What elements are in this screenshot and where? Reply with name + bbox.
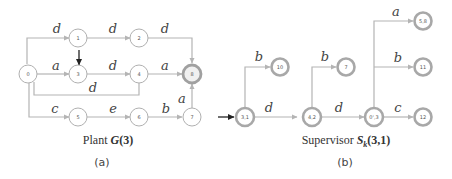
edge-0-4: d <box>34 80 139 95</box>
node-0: 0 <box>19 65 37 83</box>
svg-text:0',3: 0',3 <box>369 114 378 120</box>
svg-text:5,8: 5,8 <box>419 18 427 24</box>
edge-label: d <box>265 100 273 115</box>
node-6: 6 <box>130 108 148 126</box>
node-2: 2 <box>130 29 148 47</box>
panel-a-plant-graph: d d d a d a d c <box>19 21 201 169</box>
edge-label: d <box>109 58 117 73</box>
svg-text:1: 1 <box>76 35 79 41</box>
edge-03-12: c <box>384 100 413 117</box>
node-7: 7 <box>338 59 355 76</box>
edge-7-8: a <box>178 84 192 108</box>
node-5: 5 <box>69 108 87 126</box>
panel-b-supervisor-graph: b d b d a b c 3,1 <box>218 4 432 169</box>
svg-text:3,1: 3,1 <box>241 114 249 120</box>
edge-label: e <box>109 101 117 116</box>
svg-text:7: 7 <box>190 114 193 120</box>
edge-31-42: d <box>254 100 297 117</box>
node-4: 4 <box>130 65 148 83</box>
edge-label: a <box>52 58 60 73</box>
svg-text:5: 5 <box>76 114 79 120</box>
edge-label: b <box>394 50 402 65</box>
svg-text:4: 4 <box>137 71 140 77</box>
edge-0-3: a <box>37 58 69 74</box>
edge-03-11: b <box>374 50 413 67</box>
svg-text:0: 0 <box>26 71 29 77</box>
edge-label: b <box>321 49 329 64</box>
edge-3-4: d <box>87 58 130 74</box>
panel-b-label: (b) <box>337 156 353 169</box>
svg-text:3: 3 <box>76 71 79 77</box>
panel-b-caption: Supervisor Sk(3,1) <box>302 133 391 149</box>
svg-text:7: 7 <box>344 64 347 70</box>
edge-0-1: d <box>27 21 69 64</box>
node-0prime-3: 0',3 <box>365 108 383 126</box>
node-8-marked: 8 <box>183 65 201 83</box>
edge-2-8: d <box>148 21 192 63</box>
edge-42-7: b <box>312 49 336 108</box>
edge-4-8: a <box>148 58 182 74</box>
edge-label: c <box>394 100 402 115</box>
edge-label: d <box>335 100 343 115</box>
edge-label: d <box>53 21 61 36</box>
edge-label: a <box>178 91 186 106</box>
diagram-canvas: d d d a d a d c <box>0 0 452 179</box>
svg-text:10: 10 <box>277 64 283 70</box>
edge-5-6: e <box>87 101 130 117</box>
svg-text:6: 6 <box>137 114 140 120</box>
node-4-2: 4,2 <box>303 108 321 126</box>
panel-a-label: (a) <box>94 156 109 169</box>
edge-label: c <box>51 101 59 116</box>
panel-a-caption: Plant G(3) <box>83 133 133 147</box>
node-5-8: 5,8 <box>415 13 432 30</box>
edge-label: b <box>255 49 263 64</box>
svg-text:4,2: 4,2 <box>308 114 316 120</box>
node-10: 10 <box>272 59 289 76</box>
node-1: 1 <box>69 29 87 47</box>
edge-label: d <box>161 21 169 36</box>
edge-0-5: c <box>29 83 69 117</box>
svg-text:11: 11 <box>420 64 426 70</box>
edge-label: a <box>161 58 169 73</box>
edge-42-03: d <box>321 100 364 117</box>
node-11: 11 <box>415 59 432 76</box>
edge-6-7: b <box>148 101 182 117</box>
node-3: 3 <box>69 65 87 83</box>
svg-text:12: 12 <box>420 114 426 120</box>
node-12: 12 <box>415 109 432 126</box>
edge-label: d <box>89 80 97 95</box>
edge-1-2: d <box>87 21 130 38</box>
edge-label: b <box>162 101 170 116</box>
svg-text:2: 2 <box>137 35 140 41</box>
edge-label: d <box>109 21 117 36</box>
edge-label: a <box>392 4 400 19</box>
svg-text:8: 8 <box>190 71 193 77</box>
node-7: 7 <box>183 108 201 126</box>
node-3-1: 3,1 <box>236 108 254 126</box>
